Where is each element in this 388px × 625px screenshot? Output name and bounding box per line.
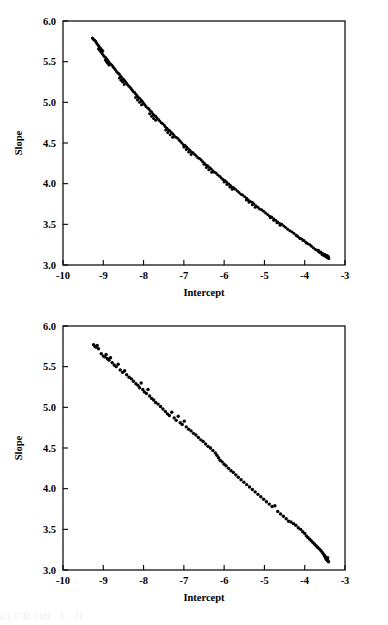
data-point [204, 442, 207, 445]
data-point [223, 181, 226, 184]
data-point [232, 471, 235, 474]
y-axis-tick-label: 3.0 [43, 260, 56, 271]
data-point [125, 373, 128, 376]
y-axis-title: Slope [13, 435, 24, 460]
data-point [190, 153, 193, 156]
y-axis-tick-label: 6.0 [43, 321, 56, 332]
data-point [150, 115, 153, 118]
x-axis-tick-label: -10 [56, 575, 70, 586]
data-point [96, 344, 99, 347]
data-point [201, 440, 204, 443]
data-point [171, 136, 174, 139]
data-point [145, 392, 148, 395]
x-axis-tick-label: -3 [341, 575, 350, 586]
figure-page: -10-9-8-7-6-5-4-33.03.54.04.55.05.56.0In… [0, 0, 388, 625]
data-point [251, 203, 254, 206]
scatter-plot-bottom: -10-9-8-7-6-5-4-33.03.54.04.55.05.56.0In… [0, 305, 388, 610]
data-point [282, 515, 285, 518]
x-axis-tick-label: -9 [99, 575, 108, 586]
data-point-group [92, 343, 330, 564]
data-point [305, 242, 308, 245]
data-point [231, 188, 234, 191]
x-axis-tick-label: -5 [260, 270, 269, 281]
data-point [138, 386, 141, 389]
y-axis-tick-label: 4.0 [43, 178, 56, 189]
data-point [269, 216, 272, 219]
y-axis-tick-label: 5.5 [43, 361, 56, 372]
data-point [272, 219, 275, 222]
data-point [148, 112, 151, 115]
data-point [279, 512, 282, 515]
x-axis-tick-label: -8 [139, 270, 148, 281]
scatter-plot-top: -10-9-8-7-6-5-4-33.03.54.04.55.05.56.0In… [0, 0, 388, 305]
x-axis-tick-label: -6 [220, 270, 229, 281]
data-point [123, 369, 126, 372]
data-point [228, 185, 231, 188]
data-point [132, 380, 135, 383]
data-point [104, 353, 107, 356]
y-axis-tick-label: 3.0 [43, 565, 56, 576]
y-axis-tick-label: 4.5 [43, 138, 56, 149]
data-point [268, 502, 271, 505]
data-point [227, 467, 230, 470]
x-axis-title: Intercept [183, 592, 225, 603]
data-point [166, 131, 169, 134]
data-point [159, 405, 162, 408]
data-point [146, 388, 149, 391]
x-axis-title: Intercept [183, 287, 225, 298]
data-point [170, 411, 173, 414]
data-point [185, 425, 188, 428]
data-point [224, 464, 227, 467]
data-point [211, 449, 214, 452]
x-axis-tick-label: -8 [139, 575, 148, 586]
x-axis-tick-label: -4 [300, 575, 309, 586]
data-point [234, 473, 237, 476]
x-axis-tick-label: -7 [179, 270, 188, 281]
data-point [251, 488, 254, 491]
data-point [275, 221, 278, 224]
data-point [259, 495, 262, 498]
data-point [183, 419, 186, 422]
data-point [245, 483, 248, 486]
data-point [161, 407, 164, 410]
y-axis-tick-label: 6.0 [43, 16, 56, 27]
data-point [138, 101, 141, 104]
y-axis-tick-label: 4.5 [43, 443, 56, 454]
data-point [242, 480, 245, 483]
y-axis-title: Slope [13, 130, 24, 155]
data-point [279, 224, 282, 227]
y-axis-tick-label: 5.0 [43, 402, 56, 413]
data-point [134, 96, 137, 99]
x-axis-tick-label: -9 [99, 270, 108, 281]
data-point [254, 206, 257, 209]
data-point [262, 498, 265, 501]
x-axis-tick-label: -5 [260, 575, 269, 586]
data-point [139, 381, 142, 384]
x-axis-tick-label: -4 [300, 270, 309, 281]
data-point [209, 446, 212, 449]
x-axis-tick-label: -6 [220, 575, 229, 586]
data-point [164, 128, 167, 131]
y-axis-tick-label: 5.0 [43, 97, 56, 108]
data-point [181, 423, 184, 426]
data-point [189, 429, 192, 432]
data-point [156, 402, 159, 405]
data-point [295, 234, 298, 237]
data-point [119, 368, 122, 371]
data-point [194, 433, 197, 436]
y-axis-tick-label: 3.5 [43, 219, 56, 230]
chart-panel-top: -10-9-8-7-6-5-4-33.03.54.04.55.05.56.0In… [0, 0, 388, 305]
footer-text-fragment: 1.1. C'11. 1101 . .1 . . 11 . . [0, 612, 388, 625]
data-point [265, 500, 268, 503]
x-axis-tick-label: -7 [179, 575, 188, 586]
data-point [185, 148, 188, 151]
x-axis-tick-label: -10 [56, 270, 70, 281]
data-point [239, 478, 242, 481]
data-point [327, 255, 330, 258]
data-point [109, 356, 112, 359]
data-point [168, 414, 171, 417]
data-point [273, 504, 276, 507]
data-point [205, 166, 208, 169]
data-point [253, 490, 256, 493]
data-point [182, 146, 185, 149]
